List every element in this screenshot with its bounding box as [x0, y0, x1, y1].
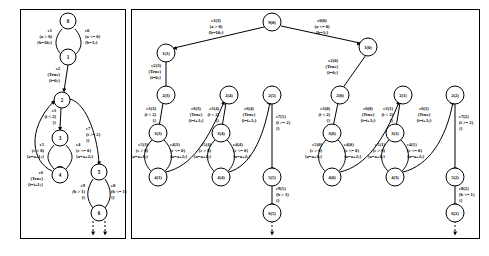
right-edge-label-e4_0: e4(0) (c <= 0) {a=a+2;} [344, 142, 361, 159]
right-node-2-5[interactable]: 2(5) [263, 86, 281, 104]
svg-text:5(5): 5(5) [268, 175, 276, 180]
svg-text:{a=a+1;}: {a=a+1;} [194, 154, 211, 159]
svg-text:(True): (True) [190, 112, 203, 117]
right-node-3-3[interactable]: 3(3) [149, 124, 167, 142]
left-edge-label-e8: e8 (b <= 1) {} [111, 183, 127, 200]
svg-text:{}: {} [215, 118, 219, 123]
svg-text:2(2): 2(2) [451, 93, 459, 98]
right-edge-label-e9_5: e9(5) (b > 1) {} [276, 186, 289, 203]
right-node-6-5[interactable]: 6(5) [263, 204, 281, 222]
right-node-2-3[interactable]: 2(3) [157, 86, 175, 104]
right-panel: e1(3) (a > 0) {b=10;} e0(0) (a <= 0) {b=… [131, 13, 475, 236]
svg-text:{a=a+2;}: {a=a+2;} [407, 154, 424, 159]
svg-text:5(2): 5(2) [451, 175, 459, 180]
left-edge-e9-path [88, 179, 93, 208]
right-node-2-0[interactable]: 2(0) [331, 86, 349, 104]
svg-text:{i=i+1;}: {i=i+1;} [241, 118, 256, 123]
svg-text:{b=10;}: {b=10;} [37, 40, 52, 45]
left-node-1[interactable]: 1 [60, 49, 76, 65]
svg-text:{}: {} [276, 198, 280, 203]
svg-text:{i=i+1;}: {i=i+1;} [28, 182, 43, 187]
svg-text:e4(3): e4(3) [170, 142, 180, 147]
svg-text:6(5): 6(5) [268, 211, 276, 216]
right-node-4-0[interactable]: 4(0) [323, 168, 341, 186]
svg-text:(i < 2): (i < 2) [144, 112, 156, 117]
svg-text:6(2): 6(2) [451, 211, 459, 216]
left-node-0[interactable]: 0 [60, 13, 76, 29]
svg-text:(b <= 1): (b <= 1) [111, 189, 127, 194]
svg-text:(i < 2): (i < 2) [44, 114, 56, 119]
right-dashed-arrow-right [453, 232, 457, 236]
right-edge-label-e3_4: e3(4) (i < 2) {} [207, 106, 219, 123]
svg-text:{}: {} [276, 126, 280, 131]
right-node-9-0[interactable]: 9(0) [263, 13, 281, 31]
left-node-2[interactable]: 2 [54, 92, 70, 108]
svg-text:{}: {} [389, 118, 393, 123]
svg-text:e7: e7 [86, 126, 91, 131]
svg-text:(c > 0): (c > 0) [310, 148, 323, 153]
svg-text:e4(0): e4(0) [344, 142, 354, 147]
right-node-5-5[interactable]: 5(5) [263, 168, 281, 186]
right-node-1-1[interactable]: 1(1) [157, 44, 175, 62]
left-edge-label-e4: e4 (c <= 0) {a=a+2;} [76, 142, 93, 159]
right-node-4-3[interactable]: 4(3) [386, 168, 404, 186]
left-node-5[interactable]: 5 [91, 164, 107, 180]
right-edge-label-e6_0: e6(0) (True) {i=i+1;} [360, 106, 375, 123]
right-edge-e3_3-path [159, 103, 163, 127]
state-machine-figure: e1 (a > 0) {b=10;} e0 (a <= 0) {b=1;} e2… [0, 0, 489, 256]
left-node-3[interactable]: 3 [52, 130, 68, 146]
right-node-3-0[interactable]: 3(0) [323, 124, 341, 142]
svg-text:{}: {} [86, 138, 90, 143]
svg-text:e1: e1 [48, 28, 53, 33]
svg-text:{a=a+2;}: {a=a+2;} [76, 154, 93, 159]
left-edge-label-e9: e9 (b > 1) {} [72, 183, 86, 200]
svg-text:e0: e0 [85, 28, 90, 33]
svg-text:e3(4): e3(4) [209, 106, 219, 111]
right-edge-e3_1-path [396, 103, 400, 127]
figure-canvas: e1 (a > 0) {b=10;} e0 (a <= 0) {b=1;} e2… [0, 0, 489, 256]
right-edge-label-e5_3: e5(3) (c > 0) {a=a+1;} [131, 142, 149, 159]
right-dashed-arrow-mid [270, 232, 274, 236]
left-node-6[interactable]: 6 [91, 205, 107, 221]
right-node-6-2[interactable]: 6(2) [446, 204, 464, 222]
svg-text:e0(0): e0(0) [317, 18, 327, 23]
right-edge-label-e7_5: e7(5) (i >= 2) {} [276, 114, 291, 131]
svg-text:{b=1;}: {b=1;} [316, 30, 329, 35]
svg-text:2(4): 2(4) [225, 93, 233, 98]
svg-text:(i < 2): (i < 2) [318, 112, 330, 117]
right-edge-label-e2_0: e2(0) (True) {i=0;} [326, 58, 339, 75]
svg-text:9(0): 9(0) [268, 20, 276, 25]
left-edge-label-e2: e2 (True) {i=0;} [48, 66, 61, 83]
left-dashed-arrow-b [103, 232, 107, 236]
svg-text:(c > 0): (c > 0) [199, 148, 212, 153]
svg-text:1(0): 1(0) [364, 45, 372, 50]
svg-text:6: 6 [98, 210, 101, 216]
right-node-2-2[interactable]: 2(2) [446, 86, 464, 104]
svg-text:(c <= 0): (c <= 0) [407, 148, 422, 153]
svg-text:{a=a+2;}: {a=a+2;} [344, 154, 361, 159]
svg-text:e2(0): e2(0) [328, 58, 338, 63]
left-edge-e3-path [60, 108, 61, 129]
right-node-2-4[interactable]: 2(4) [220, 86, 238, 104]
svg-text:(i < 2): (i < 2) [207, 112, 219, 117]
right-node-3-4[interactable]: 3(4) [212, 124, 230, 142]
svg-text:{}: {} [152, 118, 156, 123]
svg-text:{}: {} [326, 118, 330, 123]
right-node-4-1[interactable]: 4(1) [149, 168, 167, 186]
svg-text:(i >= 2): (i >= 2) [459, 120, 474, 125]
right-node-4-4[interactable]: 4(4) [212, 168, 230, 186]
right-node-5-2[interactable]: 5(2) [446, 168, 464, 186]
left-node-4[interactable]: 4 [52, 167, 68, 183]
svg-text:(c <= 0): (c <= 0) [233, 148, 248, 153]
right-node-1-0[interactable]: 1(0) [359, 38, 377, 56]
svg-text:e6(4): e6(4) [244, 106, 254, 111]
svg-text:(a > 0): (a > 0) [210, 24, 223, 29]
right-node-3-1[interactable]: 3(1) [386, 124, 404, 142]
right-edge-label-e4_1: e4(1) (c <= 0) {a=a+2;} [407, 142, 424, 159]
svg-text:{i=i+1;}: {i=i+1;} [360, 118, 375, 123]
svg-text:2(3): 2(3) [162, 93, 170, 98]
svg-text:(a <= 0): (a <= 0) [85, 34, 101, 39]
svg-text:e6(1): e6(1) [419, 106, 429, 111]
right-node-2-1[interactable]: 2(1) [394, 86, 412, 104]
right-edge-label-e6_3: e6(3) (True) {i=i+1;} [188, 106, 203, 123]
